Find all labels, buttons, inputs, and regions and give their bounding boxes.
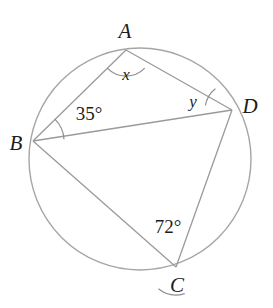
angle-label-x: x	[122, 66, 130, 83]
chord-BC	[33, 141, 176, 267]
angle-label-35-degrees: 35°	[76, 104, 103, 123]
angle-label-y: y	[189, 93, 197, 110]
chord-BD	[33, 110, 232, 141]
chord-AB	[33, 50, 126, 141]
vertex-label-b: B	[10, 133, 23, 154]
angle-label-72-degrees: 72°	[155, 217, 182, 236]
vertex-label-d: D	[242, 96, 257, 117]
chord-CD	[176, 110, 232, 267]
chord-AD	[126, 50, 232, 110]
vertex-label-a: A	[119, 21, 132, 42]
geometry-canvas	[0, 0, 273, 308]
circumcircle	[29, 48, 251, 270]
geometry-figure: A B C D x 35° 72° y	[0, 0, 273, 308]
vertex-label-c: C	[170, 275, 184, 296]
angle-arc-D	[205, 89, 215, 106]
